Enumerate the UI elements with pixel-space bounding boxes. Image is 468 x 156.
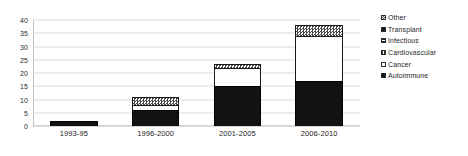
bar-segment-autoimmune[interactable] (132, 110, 179, 126)
legend-swatch-icon (381, 73, 386, 78)
legend-label: Transplant (388, 26, 422, 33)
legend-swatch-icon (381, 15, 386, 20)
y-axis-tick-25: 25 (0, 56, 28, 63)
y-axis-tick-20: 20 (0, 70, 28, 77)
bar-stack[interactable] (295, 25, 342, 126)
legend-swatch-icon (381, 50, 386, 55)
bar-group-1996-2000 (115, 20, 197, 126)
bar-segment-autoimmune[interactable] (295, 81, 342, 126)
bar-segment-autoimmune[interactable] (214, 86, 261, 126)
y-axis-tick-5: 5 (0, 109, 28, 116)
legend-item-autoimmune[interactable]: Autoimmune (381, 70, 467, 82)
legend-item-cardiovascular[interactable]: Cardiovascular (381, 47, 467, 59)
bar-segment-autoimmune[interactable] (50, 121, 97, 126)
x-axis-label-1996-2000: 1996-2000 (115, 129, 197, 138)
bar-group-2001-2005 (197, 20, 279, 126)
bar-stack[interactable] (214, 64, 261, 126)
bar-stack[interactable] (132, 97, 179, 126)
y-axis-tick-10: 10 (0, 96, 28, 103)
bar-segment-cancer[interactable] (214, 68, 261, 87)
legend-label: Infectious (388, 37, 419, 44)
y-axis-tick-35: 35 (0, 30, 28, 37)
y-axis-tick-15: 15 (0, 83, 28, 90)
bar-stack[interactable] (50, 121, 97, 126)
legend-item-cancer[interactable]: Cancer (381, 58, 467, 70)
legend-label: Cancer (388, 61, 411, 68)
x-axis-label-1993-95: 1993-95 (33, 129, 115, 138)
y-axis-tick-0: 0 (0, 123, 28, 130)
y-axis-tick-labels: 4035302520151050 (4, 0, 28, 156)
x-axis-category-labels: 1993-951996-20002001-20052006-2010 (33, 129, 360, 138)
x-axis-label-2006-2010: 2006-2010 (278, 129, 360, 138)
legend-label: Autoimmune (388, 72, 428, 79)
y-axis-tick-30: 30 (0, 43, 28, 50)
plot-area: 4035302520151050 1993-951996-20002001-20… (0, 0, 368, 156)
bar-group-1993-95 (33, 20, 115, 126)
legend-label: Other (388, 14, 406, 21)
legend-swatch-icon (381, 62, 386, 67)
bar-segment-other[interactable] (132, 97, 179, 105)
legend-label: Cardiovascular (388, 49, 436, 56)
bar-segment-cancer[interactable] (295, 36, 342, 81)
bar-group-2006-2010 (278, 20, 360, 126)
legend-item-transplant[interactable]: Transplant (381, 24, 467, 36)
legend-swatch-icon (381, 38, 386, 43)
legend-swatch-icon (381, 27, 386, 32)
x-axis-label-2001-2005: 2001-2005 (197, 129, 279, 138)
bar-segment-other[interactable] (295, 25, 342, 36)
legend-item-other[interactable]: Other (381, 12, 467, 24)
chart-legend: OtherTransplantInfectiousCardiovascularC… (381, 12, 467, 82)
stacked-bar-chart: 4035302520151050 1993-951996-20002001-20… (0, 0, 468, 156)
legend-item-infectious[interactable]: Infectious (381, 35, 467, 47)
bar-series-container (33, 20, 360, 126)
y-axis-tick-40: 40 (0, 17, 28, 24)
